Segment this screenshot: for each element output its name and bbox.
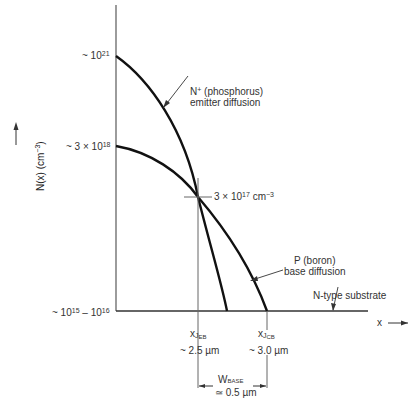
- wbase-right-arrow-icon: [260, 384, 266, 388]
- y-axis-label: N(x) (cm−3): [34, 116, 46, 216]
- xjeb-value: ~ 2.5 µm: [180, 345, 219, 356]
- x-axis-label: x: [377, 317, 382, 328]
- emitter-label: N+ (phosphorus) emitter diffusion: [190, 86, 263, 108]
- y-arrow-icon: [14, 122, 19, 130]
- y-tick-bottom: ~ 1015 – 1016: [52, 307, 110, 318]
- xjeb-label: xJEB: [190, 328, 207, 339]
- wbase-value: ≃ 0.5 µm: [215, 387, 257, 398]
- wbase-left-arrow-icon: [199, 384, 205, 388]
- y-tick-top: ~ 1021: [82, 50, 110, 61]
- xjcb-label: xJCB: [258, 328, 275, 339]
- substrate-label: N-type substrate: [313, 290, 386, 301]
- base-label: P (boron) base diffusion: [284, 255, 346, 277]
- wbase-label: WBASE: [218, 374, 243, 385]
- y-tick-mid: ~ 3 × 1018: [66, 141, 111, 152]
- xjcb-value: ~ 3.0 µm: [249, 345, 288, 356]
- doping-profile-diagram: [0, 0, 420, 420]
- crossing-label: 3 × 1017 cm−3: [214, 191, 274, 202]
